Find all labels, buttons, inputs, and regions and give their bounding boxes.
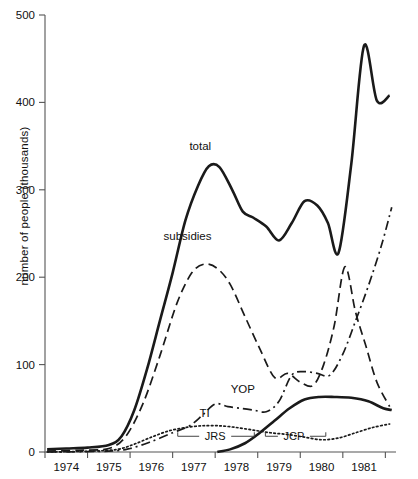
x-tick-label: 1978 bbox=[224, 461, 250, 473]
series-line-subsidies bbox=[47, 264, 389, 451]
y-tick-label: 300 bbox=[16, 184, 35, 196]
x-tick-label: 1981 bbox=[351, 461, 377, 473]
span-label-jcp: JCP bbox=[284, 430, 305, 442]
chart-figure: number of people (thousands) 01002003004… bbox=[0, 0, 418, 479]
series-label-ti: TI bbox=[199, 407, 209, 419]
series-label-yop: YOP bbox=[231, 383, 256, 395]
x-axis-ticks: 19741975197619771978197919801981 bbox=[45, 452, 385, 473]
span-bar-left-jrs bbox=[178, 432, 199, 436]
scheme-span-annotations: JRSJCP bbox=[178, 430, 326, 442]
x-tick-label: 1974 bbox=[53, 461, 79, 473]
x-tick-label: 1980 bbox=[309, 461, 335, 473]
series-label-total: total bbox=[189, 140, 211, 152]
y-tick-label: 500 bbox=[16, 9, 35, 21]
y-tick-label: 100 bbox=[16, 359, 35, 371]
series-label-subsidies: subsidies bbox=[164, 230, 212, 242]
series-line-unlabelled-solid-lower bbox=[217, 397, 391, 452]
series-line-total bbox=[47, 44, 389, 449]
x-tick-label: 1976 bbox=[139, 461, 165, 473]
x-tick-label: 1977 bbox=[181, 461, 207, 473]
y-tick-label: 0 bbox=[29, 446, 35, 458]
line-chart-plot: 0100200300400500 19741975197619771978197… bbox=[0, 0, 418, 479]
span-label-jrs: JRS bbox=[205, 430, 226, 442]
series-inline-labels: totalsubsidiesYOPTI bbox=[164, 140, 256, 419]
span-bar-right-jrs bbox=[231, 432, 254, 436]
y-axis-ticks: 0100200300400500 bbox=[16, 9, 45, 458]
data-series bbox=[47, 44, 392, 452]
x-tick-label: 1975 bbox=[96, 461, 122, 473]
y-tick-label: 400 bbox=[16, 96, 35, 108]
x-tick-label: 1979 bbox=[266, 461, 292, 473]
span-bar-right-jcp bbox=[310, 432, 326, 436]
y-tick-label: 200 bbox=[16, 271, 35, 283]
